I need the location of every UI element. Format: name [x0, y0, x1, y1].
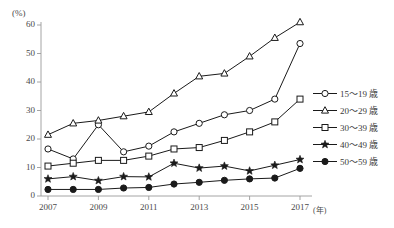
data-point-star-filled — [44, 175, 52, 183]
legend-item-2[interactable]: 30～39 歳 — [312, 122, 378, 133]
y-tick-label: 10 — [13, 162, 35, 172]
legend-marker-circle-open — [312, 88, 338, 99]
data-point-triangle-open — [297, 18, 304, 24]
legend-item-1[interactable]: 20～29 歳 — [312, 105, 378, 116]
data-point-circle-open — [247, 107, 253, 113]
data-point-triangle-open — [171, 90, 178, 96]
legend-item-3[interactable]: 40～49 歳 — [312, 139, 378, 150]
data-point-star-filled — [120, 172, 128, 180]
y-tick-label: 60 — [13, 19, 35, 29]
data-point-circle-filled — [95, 186, 101, 192]
legend-marker-triangle-open — [312, 105, 338, 116]
data-point-square-open — [247, 129, 253, 135]
data-point-circle-open — [221, 112, 227, 118]
data-point-circle-open — [272, 96, 278, 102]
legend-item-4[interactable]: 50～59 歳 — [312, 156, 378, 167]
data-point-circle-open — [196, 120, 202, 126]
data-point-circle-open — [146, 143, 152, 149]
legend-item-0[interactable]: 15～19 歳 — [312, 88, 378, 99]
legend-label: 40～49 歳 — [340, 138, 378, 151]
y-tick-label: 40 — [13, 76, 35, 86]
data-point-star-filled — [271, 161, 279, 169]
data-point-circle-open — [171, 129, 177, 135]
data-point-circle-filled — [247, 176, 253, 182]
data-point-star-filled — [170, 159, 178, 167]
data-point-star-filled — [69, 172, 77, 180]
data-point-triangle-open — [145, 108, 152, 114]
data-point-square-open — [171, 146, 177, 152]
y-tick-label: 20 — [13, 133, 35, 143]
legend-label: 50～59 歳 — [340, 155, 378, 168]
data-series-layer — [44, 18, 304, 192]
y-tick-label: 50 — [13, 48, 35, 58]
data-point-circle-open — [45, 146, 51, 152]
x-tick-label: 2011 — [129, 202, 169, 212]
data-point-circle-filled — [171, 181, 177, 187]
data-point-square-open — [221, 137, 227, 143]
series-1 — [45, 18, 304, 137]
axis-ticks — [37, 25, 300, 200]
legend-marker-star-filled — [312, 139, 338, 150]
data-point-circle-filled — [45, 186, 51, 192]
data-point-square-open — [196, 145, 202, 151]
data-point-star-filled — [296, 155, 304, 163]
data-point-triangle-open — [246, 53, 253, 59]
legend-label: 30～39 歳 — [340, 121, 378, 134]
axis-lines — [41, 22, 312, 196]
data-point-star-filled — [246, 167, 254, 175]
data-point-star-filled — [195, 164, 203, 172]
data-point-triangle-open — [322, 107, 329, 113]
x-tick-label: 2015 — [230, 202, 270, 212]
data-point-square-open — [322, 125, 328, 131]
data-point-circle-filled — [221, 177, 227, 183]
data-point-circle-filled — [121, 185, 127, 191]
data-point-square-open — [45, 163, 51, 169]
data-point-circle-open — [322, 90, 328, 96]
series-line — [48, 44, 300, 159]
data-point-circle-filled — [196, 179, 202, 185]
data-point-square-open — [95, 157, 101, 163]
x-tick-label: 2013 — [179, 202, 219, 212]
data-point-star-filled — [220, 162, 228, 170]
data-point-triangle-open — [271, 34, 278, 40]
data-point-star-filled — [145, 173, 153, 181]
chart-legend: 15～19 歳20～29 歳30～39 歳40～49 歳50～59 歳 — [312, 88, 378, 167]
legend-marker-circle-filled — [312, 156, 338, 167]
line-chart: (%) 0102030405060 2007200920112013201520… — [0, 0, 394, 228]
data-point-star-filled — [94, 176, 102, 184]
x-tick-label: 2007 — [28, 202, 68, 212]
data-point-square-open — [297, 96, 303, 102]
data-point-circle-filled — [297, 165, 303, 171]
y-tick-label: 0 — [13, 190, 35, 200]
legend-label: 20～29 歳 — [340, 104, 378, 117]
data-point-star-filled — [321, 140, 329, 148]
data-point-triangle-open — [221, 70, 228, 76]
series-3 — [44, 155, 304, 184]
legend-marker-square-open — [312, 122, 338, 133]
y-tick-label: 30 — [13, 105, 35, 115]
data-point-square-open — [272, 119, 278, 125]
legend-label: 15～19 歳 — [340, 87, 378, 100]
x-axis-unit-label: (年) — [313, 204, 326, 215]
data-point-square-open — [146, 153, 152, 159]
data-point-circle-open — [121, 149, 127, 155]
data-point-circle-filled — [322, 158, 328, 164]
data-point-circle-filled — [146, 184, 152, 190]
series-0 — [45, 40, 303, 162]
series-line — [48, 22, 300, 135]
data-point-square-open — [121, 157, 127, 163]
x-tick-label: 2009 — [78, 202, 118, 212]
data-point-circle-filled — [272, 175, 278, 181]
data-point-circle-filled — [70, 186, 76, 192]
data-point-circle-open — [297, 40, 303, 46]
series-4 — [45, 165, 303, 192]
data-point-square-open — [70, 160, 76, 166]
